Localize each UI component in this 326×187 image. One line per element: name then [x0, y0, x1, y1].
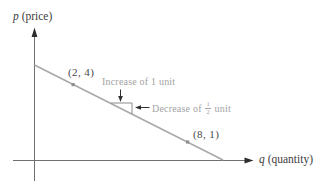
decrease-annotation-prefix: Decrease of	[152, 103, 202, 114]
increase-arrowhead-icon	[118, 96, 123, 102]
y-axis-arrowhead-icon	[32, 28, 38, 38]
point-label-8-1: (8, 1)	[193, 128, 219, 140]
decrease-annotation-suffix: unit	[215, 103, 231, 114]
decrease-annotation: Decrease of 1 2 unit	[152, 101, 231, 116]
fraction-denominator: 2	[205, 109, 210, 116]
point-marker-2-4	[72, 83, 75, 86]
y-axis-label: p (price)	[13, 10, 52, 22]
increase-annotation: Increase of 1 unit	[102, 76, 175, 87]
demand-curve-figure: p (price) q (quantity) (2, 4) (8, 1) Inc…	[0, 0, 326, 187]
x-axis-label: q (quantity)	[259, 153, 313, 165]
y-axis-unit-text: (price)	[19, 10, 53, 22]
x-axis-arrowhead-icon	[245, 158, 254, 164]
point-marker-8-1	[186, 140, 189, 143]
point-label-2-4: (2, 4)	[68, 66, 94, 78]
decrease-arrowhead-icon	[135, 105, 141, 110]
one-half-fraction: 1 2	[205, 101, 210, 116]
x-axis-unit-text: (quantity)	[265, 153, 313, 165]
